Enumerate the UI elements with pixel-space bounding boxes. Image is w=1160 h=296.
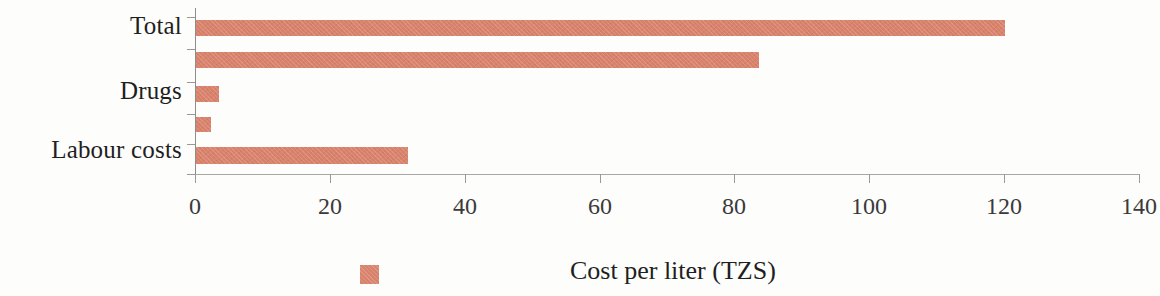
y-axis-tick — [187, 17, 195, 18]
x-axis-tick-label-0: 0 — [189, 194, 201, 218]
bar-chart: Total Drugs Labour costs 0 20 40 60 — [0, 0, 1160, 296]
x-axis-line — [195, 174, 1139, 175]
y-axis-tick — [187, 82, 195, 83]
x-axis-tick-label-60: 60 — [588, 194, 612, 218]
x-axis-tick-label-20: 20 — [318, 194, 342, 218]
x-axis-tick — [330, 174, 331, 183]
x-axis-tick-label-120: 120 — [986, 194, 1022, 218]
y-axis-label-drugs: Drugs — [120, 78, 182, 103]
x-axis-tick-label-80: 80 — [722, 194, 746, 218]
bar-drugs — [196, 86, 219, 102]
legend-swatch-icon — [360, 265, 379, 284]
chart-legend: Cost per liter (TZS) — [0, 252, 1160, 296]
x-axis-tick — [465, 174, 466, 183]
x-axis-tick — [1004, 174, 1005, 183]
y-axis-label-group: Total Drugs Labour costs — [0, 0, 182, 174]
x-axis-tick — [600, 174, 601, 183]
x-axis-tick-label-100: 100 — [851, 194, 887, 218]
y-axis-label-total: Total — [130, 13, 182, 38]
bar-labour-costs — [196, 147, 408, 164]
x-axis-tick — [869, 174, 870, 183]
y-axis-tick — [187, 49, 195, 50]
y-axis-tick — [187, 174, 195, 175]
legend-label: Cost per liter (TZS) — [570, 256, 776, 286]
plot-area: 0 20 40 60 80 100 120 140 — [195, 8, 1139, 174]
bar-total — [196, 20, 1005, 36]
y-axis-tick — [187, 114, 195, 115]
y-axis-tick — [187, 144, 195, 145]
x-axis-tick-label-140: 140 — [1121, 194, 1157, 218]
bar-second — [196, 52, 759, 68]
x-axis-tick — [195, 174, 196, 183]
x-axis-tick-label-40: 40 — [453, 194, 477, 218]
y-axis-label-labour-costs: Labour costs — [51, 137, 182, 162]
x-axis-tick — [1139, 174, 1140, 183]
bar-fourth — [196, 117, 211, 132]
x-axis-tick — [734, 174, 735, 183]
